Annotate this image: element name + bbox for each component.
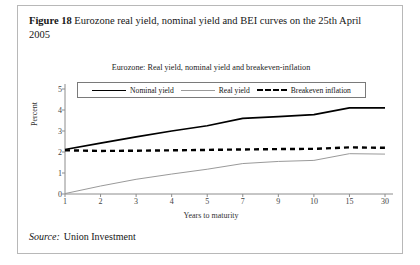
chart-canvas	[18, 6, 404, 255]
figure-frame: Figure 18 Eurozone real yield, nominal y…	[17, 5, 403, 254]
series-line	[65, 147, 385, 151]
legend-item-real-yield: Real yield	[181, 86, 250, 95]
legend-item-breakeven-inflation: Breakeven inflation	[257, 86, 351, 95]
chart-legend: Nominal yield Real yield Breakeven infla…	[77, 82, 366, 98]
legend-line-nominal-icon	[92, 90, 126, 91]
series-line	[65, 154, 385, 194]
series-line	[65, 108, 385, 150]
legend-label-real: Real yield	[219, 86, 250, 95]
source-value: Union Investment	[64, 231, 136, 242]
legend-item-nominal-yield: Nominal yield	[92, 86, 174, 95]
legend-label-nominal: Nominal yield	[130, 86, 174, 95]
plot-area: Percent Years to maturity 012345 1234579…	[18, 6, 404, 255]
legend-line-bei-icon	[257, 89, 287, 91]
source-note: Source:Union Investment	[29, 231, 136, 242]
legend-line-real-icon	[181, 90, 215, 91]
source-label: Source:	[29, 231, 60, 242]
legend-label-bei: Breakeven inflation	[291, 86, 351, 95]
